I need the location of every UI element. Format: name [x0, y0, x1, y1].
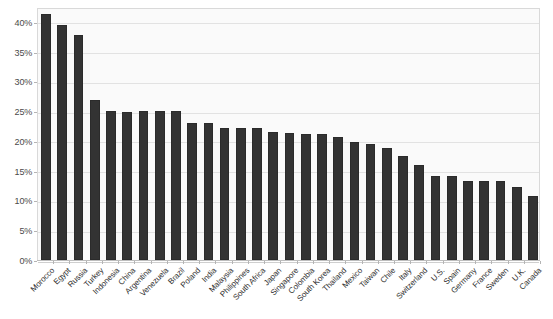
- x-tick-mark: [118, 261, 119, 264]
- bar[interactable]: [431, 176, 441, 260]
- bar[interactable]: [528, 196, 538, 260]
- x-tick-mark: [69, 261, 70, 264]
- bar[interactable]: [90, 100, 100, 260]
- x-tick-mark: [313, 261, 314, 264]
- y-tick-label: 30%: [15, 77, 32, 87]
- bar[interactable]: [155, 111, 165, 260]
- bar[interactable]: [139, 111, 149, 260]
- y-tick-label: 15%: [15, 167, 32, 177]
- y-tick-label: 40%: [15, 18, 32, 28]
- x-tick-mark: [264, 261, 265, 264]
- y-tick-label: 10%: [15, 196, 32, 206]
- bar[interactable]: [479, 181, 489, 260]
- y-tick-label: 35%: [15, 48, 32, 58]
- x-axis: MoroccoEgyptRussiaTurkeyIndonesiaChinaAr…: [37, 261, 540, 319]
- bar[interactable]: [41, 14, 51, 260]
- bar[interactable]: [252, 128, 262, 260]
- bar[interactable]: [187, 123, 197, 261]
- x-tick-mark: [491, 261, 492, 264]
- bars-layer: [38, 9, 539, 260]
- bar[interactable]: [301, 134, 311, 260]
- y-tick-label: 20%: [15, 137, 32, 147]
- bar[interactable]: [74, 35, 84, 260]
- bar[interactable]: [398, 156, 408, 260]
- x-tick-mark: [167, 261, 168, 264]
- x-tick-mark: [297, 261, 298, 264]
- x-tick-mark: [199, 261, 200, 264]
- y-tick-label: 5%: [19, 226, 32, 236]
- bar[interactable]: [382, 148, 392, 260]
- x-tick-mark: [280, 261, 281, 264]
- x-tick-mark: [215, 261, 216, 264]
- bar[interactable]: [350, 142, 360, 260]
- bar[interactable]: [236, 128, 246, 260]
- bar[interactable]: [220, 128, 230, 260]
- bar[interactable]: [463, 181, 473, 260]
- x-tick-mark: [134, 261, 135, 264]
- bar[interactable]: [333, 137, 343, 260]
- bar[interactable]: [496, 181, 506, 260]
- x-tick-mark: [540, 261, 541, 264]
- bar-chart: 0%5%10%15%20%25%30%35%40% MoroccoEgyptRu…: [0, 0, 553, 319]
- y-tick-label: 25%: [15, 107, 32, 117]
- x-tick-mark: [362, 261, 363, 264]
- x-tick-mark: [86, 261, 87, 264]
- y-tick-label: 0%: [19, 256, 32, 266]
- x-tick-mark: [378, 261, 379, 264]
- bar[interactable]: [447, 176, 457, 260]
- x-tick-mark: [53, 261, 54, 264]
- x-tick-mark: [248, 261, 249, 264]
- x-tick-mark: [426, 261, 427, 264]
- bar[interactable]: [317, 134, 327, 260]
- x-tick-mark: [329, 261, 330, 264]
- x-tick-mark: [410, 261, 411, 264]
- x-tick-mark: [394, 261, 395, 264]
- bar[interactable]: [414, 165, 424, 260]
- x-tick-mark: [459, 261, 460, 264]
- x-tick-mark: [475, 261, 476, 264]
- x-tick-mark: [183, 261, 184, 264]
- y-axis: 0%5%10%15%20%25%30%35%40%: [0, 0, 37, 319]
- x-tick-mark: [524, 261, 525, 264]
- x-tick-mark: [508, 261, 509, 264]
- bar[interactable]: [268, 132, 278, 260]
- bar[interactable]: [122, 112, 132, 260]
- x-tick-mark: [151, 261, 152, 264]
- x-tick-mark: [345, 261, 346, 264]
- x-tick-mark: [232, 261, 233, 264]
- x-tick-mark: [443, 261, 444, 264]
- bar[interactable]: [106, 111, 116, 260]
- bar[interactable]: [171, 111, 181, 260]
- bar[interactable]: [512, 187, 522, 260]
- bar[interactable]: [204, 123, 214, 261]
- bar[interactable]: [285, 133, 295, 260]
- bar[interactable]: [366, 144, 376, 260]
- bar[interactable]: [57, 25, 67, 260]
- plot-area: [37, 8, 540, 261]
- x-tick-mark: [102, 261, 103, 264]
